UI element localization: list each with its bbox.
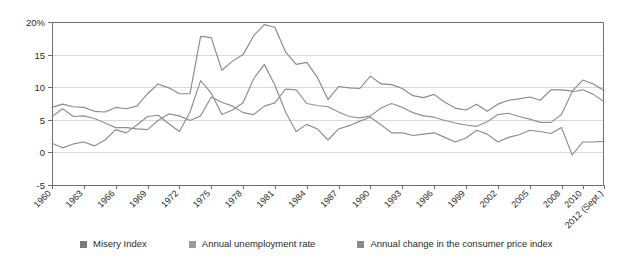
- gridlines: [52, 55, 604, 153]
- legend-item-unemployment-rate[interactable]: Annual unemployment rate: [189, 239, 316, 249]
- x-tick-label: 1990: [350, 188, 371, 209]
- legend-label-misery-index: Misery Index: [93, 239, 147, 249]
- x-tick-label: 1981: [255, 188, 276, 209]
- series-line-2: [52, 64, 604, 155]
- x-tick-label: 1966: [95, 188, 116, 209]
- x-tick-label: 1984: [286, 188, 307, 209]
- x-tick-label: 1996: [414, 188, 435, 209]
- x-tick-label: 2002: [478, 188, 499, 209]
- y-tick-label: 0: [40, 147, 45, 158]
- y-tick-label: 5: [40, 115, 45, 126]
- x-axis-ticks: 1960196319661969197219751978198119841987…: [32, 185, 605, 230]
- chart-container: 20%151050-5 1960196319661969197219751978…: [0, 0, 628, 269]
- axis-lines: [53, 23, 604, 186]
- y-axis-ticks: 20%151050-5: [26, 17, 52, 191]
- x-tick-label: 1969: [127, 188, 148, 209]
- legend-swatch-unemployment-rate: [189, 241, 196, 248]
- x-tick-label: 1960: [32, 188, 53, 209]
- x-tick-label: 1963: [64, 188, 85, 209]
- x-tick-label: 1993: [382, 188, 403, 209]
- y-tick-label: 20%: [26, 17, 46, 28]
- legend-label-unemployment-rate: Annual unemployment rate: [202, 239, 316, 249]
- x-tick-label: 1987: [318, 188, 339, 209]
- series-line-0: [52, 25, 604, 112]
- x-tick-label: 2005: [509, 188, 530, 209]
- misery-index-line-chart: 20%151050-5 1960196319661969197219751978…: [0, 0, 628, 269]
- data-series: [52, 25, 604, 155]
- legend-swatch-misery-index: [80, 241, 87, 248]
- legend-item-misery-index[interactable]: Misery Index: [80, 239, 147, 249]
- x-tick-label: 1978: [223, 188, 244, 209]
- series-line-1: [52, 89, 604, 129]
- legend-swatch-cpi-change: [357, 241, 364, 248]
- x-tick-label: 1999: [446, 188, 467, 209]
- y-tick-label: 10: [34, 82, 45, 93]
- chart-legend: Misery Index Annual unemployment rate An…: [0, 234, 628, 254]
- x-tick-label: 2008: [541, 188, 562, 209]
- legend-item-cpi-change[interactable]: Annual change in the consumer price inde…: [357, 239, 552, 249]
- x-tick-label: 1972: [159, 188, 180, 209]
- y-tick-label: 15: [34, 50, 45, 61]
- legend-label-cpi-change: Annual change in the consumer price inde…: [370, 239, 552, 249]
- x-tick-label: 1975: [191, 188, 212, 209]
